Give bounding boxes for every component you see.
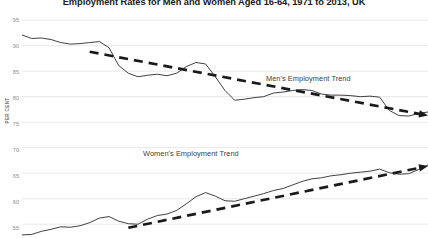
- y-tick-label: 75: [2, 121, 19, 127]
- plot-area: [22, 14, 428, 238]
- men-employment-line: [22, 35, 428, 116]
- y-tick-label: 95: [2, 17, 19, 23]
- y-tick-label: 55: [2, 225, 19, 231]
- men-trend-arrow: [90, 52, 420, 114]
- y-tick-label: 80: [2, 95, 19, 101]
- men-trend-annotation: Men's Employment Trend: [266, 74, 351, 83]
- y-tick-label: 90: [2, 43, 19, 49]
- y-tick-label: 65: [2, 173, 19, 179]
- page-title: Employment Rates for Men and Women Aged …: [0, 0, 428, 9]
- chart-screenshot: Employment Rates for Men and Women Aged …: [0, 0, 428, 238]
- gridlines: [22, 20, 428, 224]
- men-trend-arrowhead: [418, 110, 428, 117]
- y-tick-label: 85: [2, 69, 19, 75]
- chart-canvas: [22, 14, 428, 238]
- y-tick-label: 60: [2, 199, 19, 205]
- women-trend-arrow: [128, 168, 420, 228]
- women-trend-annotation: Women's Employment Trend: [143, 149, 239, 158]
- y-tick-label: 70: [2, 147, 19, 153]
